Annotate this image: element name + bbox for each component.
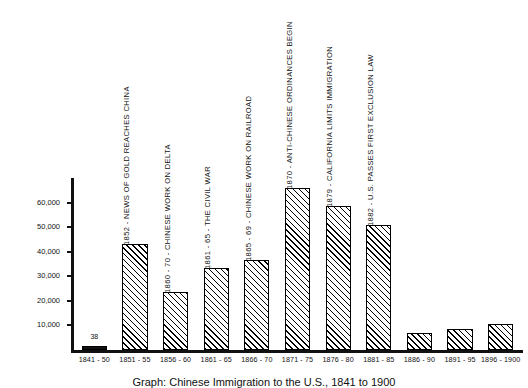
- x-tick-label: 1861 - 65: [196, 355, 237, 364]
- y-tick-mark: [67, 324, 74, 326]
- y-tick-label: 60,000: [0, 198, 60, 207]
- bar: [366, 225, 391, 350]
- x-tick-label: 1881 - 85: [358, 355, 399, 364]
- x-tick-label: 1871 - 75: [277, 355, 318, 364]
- event-annotation: 1870 - ANTI-CHINESE ORDINANCES BEGIN: [285, 21, 294, 189]
- x-tick-label: 1866 - 70: [237, 355, 278, 364]
- chart-page: 10,00020,00030,00040,00050,00060,000 38 …: [0, 0, 528, 388]
- y-tick-mark: [67, 275, 74, 277]
- x-tick-label: 1841 - 50: [74, 355, 115, 364]
- bar: [244, 260, 269, 350]
- bar: [82, 346, 107, 350]
- event-annotation: 1861 - 65 - THE CIVIL WAR: [203, 166, 212, 269]
- bar: [447, 329, 472, 350]
- x-tick-label: 1896 - 1900: [480, 355, 521, 364]
- bar: [326, 206, 351, 350]
- event-annotation: 1879 - CALIFORNIA LIMITS IMMIGRATION: [325, 46, 334, 207]
- x-tick-label: 1876 - 80: [318, 355, 359, 364]
- bar: [488, 324, 513, 350]
- y-tick-mark: [67, 202, 74, 204]
- y-tick-label: 20,000: [0, 296, 60, 305]
- y-tick-mark: [67, 251, 74, 253]
- bar-value-label: 38: [74, 333, 115, 340]
- y-tick-label: 50,000: [0, 222, 60, 231]
- y-tick-mark: [67, 300, 74, 302]
- bar: [122, 244, 147, 350]
- y-tick-label: 10,000: [0, 320, 60, 329]
- x-tick-label: 1856 - 60: [155, 355, 196, 364]
- y-tick-label: 40,000: [0, 247, 60, 256]
- event-annotation: 1865 - 69 - CHINESE WORK ON RAILROAD: [244, 96, 253, 261]
- event-annotation: 1852 - NEWS OF GOLD REACHES CHINA: [122, 87, 131, 246]
- x-tick-label: 1891 - 95: [440, 355, 481, 364]
- x-axis-line: [71, 350, 523, 353]
- bar: [204, 268, 229, 350]
- event-annotation: 1882 - U.S. PASSES FIRST EXCLUSION LAW: [366, 54, 375, 226]
- bar: [163, 292, 188, 350]
- bar-chart: 10,00020,00030,00040,00050,00060,000 38 …: [0, 0, 528, 388]
- event-annotation: 1860 - 70 - CHINESE WORK ON DELTA: [163, 144, 172, 293]
- bar: [407, 333, 432, 350]
- x-tick-label: 1886 - 90: [399, 355, 440, 364]
- y-tick-label: 30,000: [0, 271, 60, 280]
- x-tick-label: 1851 - 55: [115, 355, 156, 364]
- y-tick-mark: [67, 226, 74, 228]
- chart-caption: Graph: Chinese Immigration to the U.S., …: [0, 376, 528, 388]
- bar: [285, 188, 310, 350]
